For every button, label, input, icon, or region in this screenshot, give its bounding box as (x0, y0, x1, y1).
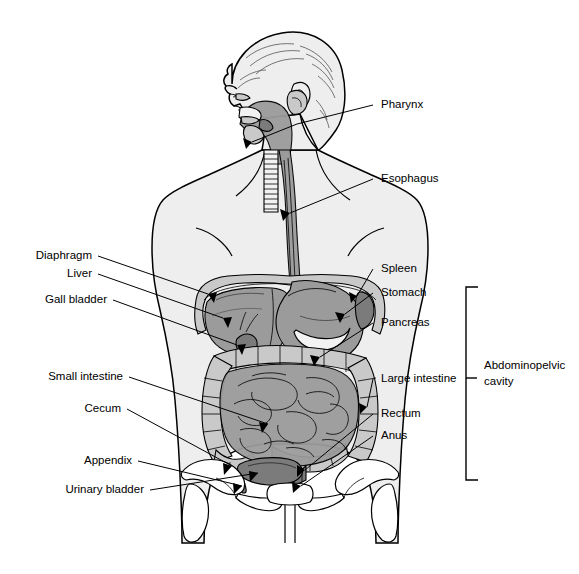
label-urinary-bladder: Urinary bladder (65, 483, 144, 495)
label-spleen: Spleen (381, 262, 417, 274)
label-stomach: Stomach (381, 286, 426, 298)
label-pancreas: Pancreas (381, 316, 430, 328)
label-large-intestine: Large intestine (381, 372, 456, 384)
label-liver: Liver (67, 267, 92, 279)
label-cecum: Cecum (85, 402, 121, 414)
label-abdominopelvic-cavity-line1: Abdominopelvic (484, 359, 565, 371)
label-appendix: Appendix (84, 454, 132, 466)
label-pharynx: Pharynx (381, 98, 423, 110)
label-rectum: Rectum (381, 407, 421, 419)
label-diaphragm: Diaphragm (36, 249, 92, 261)
label-abdominopelvic-cavity-line2: cavity (484, 375, 514, 387)
label-gall-bladder: Gall bladder (45, 293, 107, 305)
label-anus: Anus (381, 429, 407, 441)
label-esophagus: Esophagus (381, 172, 439, 184)
anatomy-diagram: Pharynx Esophagus Spleen Stomach Pancrea… (0, 0, 579, 574)
label-small-intestine: Small intestine (48, 370, 123, 382)
trachea (264, 150, 278, 212)
